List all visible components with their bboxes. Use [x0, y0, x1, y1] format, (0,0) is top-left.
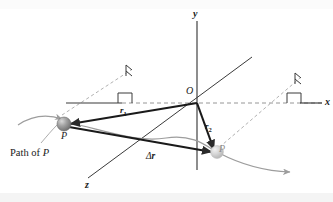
path-leader-line: [41, 125, 57, 143]
vector-r2-label: r2: [205, 122, 212, 133]
y-axis-label: y: [193, 9, 197, 19]
vector-r1: [70, 103, 197, 124]
projection-guides: [62, 70, 300, 151]
path-caption-prefix: Path of: [10, 147, 43, 158]
origin-label: O: [186, 86, 193, 96]
dashed-guide-right: [215, 78, 300, 151]
vector-r2-subscript: 2: [209, 126, 212, 133]
vector-delta-r-label: Δr: [146, 152, 155, 162]
path-segment-left: [18, 116, 62, 125]
x-axis-label: x: [325, 97, 330, 107]
right-angle-marker-right: [287, 73, 301, 103]
path-caption: Path of P: [10, 148, 49, 159]
z-axis-label: z: [85, 180, 89, 190]
point-p-prime-label: P: [219, 144, 225, 154]
path-segment-middle: [66, 122, 215, 151]
diagram-canvas: [0, 0, 333, 202]
path-caption-point: P: [43, 147, 49, 158]
vector-r1-label: r1: [120, 106, 127, 117]
right-angle-square-left: [118, 93, 132, 103]
right-angle-marker-left: [118, 65, 132, 103]
figure-root: y x z O P P r1 r2 Δr Path of P: [0, 0, 333, 202]
delta-r-symbol: r: [152, 151, 156, 161]
right-angle-tick-left: [126, 65, 132, 76]
particle-markers: [57, 117, 223, 158]
point-p-label: P: [61, 131, 67, 141]
particle-sphere-p: [57, 117, 71, 131]
path-segment-right: [219, 153, 290, 172]
vector-r1-subscript: 1: [124, 110, 127, 117]
right-angle-square-right: [287, 93, 301, 103]
